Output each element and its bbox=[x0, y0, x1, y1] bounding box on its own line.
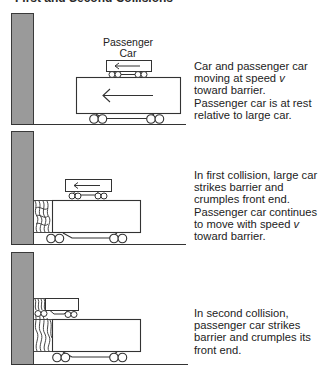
barrier bbox=[12, 132, 34, 245]
crumpled-front-end bbox=[34, 314, 53, 352]
crumpled-front-end bbox=[34, 201, 53, 233]
panel-1-caption: Car and passenger car moving at speed v … bbox=[194, 60, 318, 121]
speed-symbol: v bbox=[294, 218, 300, 230]
panel-1 bbox=[11, 14, 186, 125]
passenger-car-label: Passenger Car bbox=[100, 37, 156, 58]
caption-text: In second collision, passenger car strik… bbox=[194, 307, 311, 356]
caption-text: Car and passenger car moving at speed bbox=[194, 60, 308, 84]
speed-symbol: v bbox=[279, 72, 285, 84]
caption-text: toward barrier. bbox=[194, 230, 266, 242]
panel-2 bbox=[11, 132, 186, 245]
passenger-car bbox=[107, 61, 152, 78]
panel-3-caption: In second collision, passenger car strik… bbox=[194, 307, 318, 356]
passenger-car-label-line2: Car bbox=[100, 48, 156, 58]
passenger-car-label-line1: Passenger bbox=[100, 37, 156, 47]
barrier bbox=[12, 14, 34, 125]
passenger-car bbox=[66, 180, 112, 200]
large-car bbox=[34, 314, 141, 362]
panel-2-caption: In first collision, large car strikes ba… bbox=[194, 169, 318, 242]
panel-3 bbox=[11, 253, 188, 365]
barrier bbox=[12, 253, 34, 365]
caption-text: toward barrier. Passenger car is at rest… bbox=[194, 84, 312, 120]
passenger-car bbox=[34, 299, 79, 318]
large-car bbox=[34, 201, 141, 243]
large-car bbox=[77, 78, 181, 124]
crumpled-front-end bbox=[34, 299, 46, 311]
